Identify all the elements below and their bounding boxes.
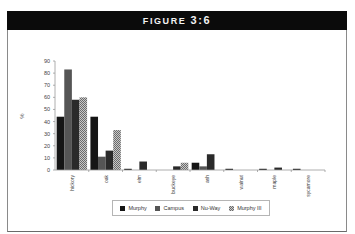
bar-oak-campus [98, 157, 106, 170]
x-tick-label: oak [103, 175, 109, 184]
legend-item-murphy-iii: Murphy III [229, 205, 261, 211]
legend-swatch-nu-way [193, 206, 198, 211]
bar-buckeye-nu-way [173, 166, 181, 170]
y-tick-label: 70 [44, 82, 50, 88]
bar-buckeye-murphy-iii [181, 163, 189, 170]
legend-label: Nu-Way [201, 205, 221, 211]
bar-chart: 0102030405060708090% hickoryoakelmbuckey… [0, 0, 355, 234]
y-axis-label: % [19, 113, 25, 119]
bar-oak-nu-way [106, 151, 114, 170]
legend: Murphy Campus Nu-Way Murphy III [112, 200, 270, 216]
y-tick-label: 80 [44, 70, 50, 76]
x-tick-label: elm [136, 175, 142, 183]
bar-oak-murphy-iii [113, 130, 121, 170]
bars [57, 69, 301, 170]
legend-item-nu-way: Nu-Way [193, 205, 221, 211]
y-axis: 0102030405060708090% [19, 58, 55, 173]
bar-oak-murphy [90, 117, 98, 170]
x-tick-label: hickory [69, 175, 75, 191]
x-axis: hickoryoakelmbuckeyeashwalnutmaplesycamo… [55, 170, 325, 197]
x-tick-label: sycamore [305, 175, 311, 197]
legend-swatch-murphy-iii [229, 206, 234, 211]
y-tick-label: 50 [44, 106, 50, 112]
legend-item-campus: Campus [155, 205, 183, 211]
x-tick-label: maple [271, 175, 277, 189]
legend-item-murphy: Murphy [120, 205, 146, 211]
legend-label: Murphy III [237, 205, 261, 211]
bar-ash-nu-way [207, 154, 215, 170]
legend-swatch-murphy [120, 206, 125, 211]
y-tick-label: 40 [44, 119, 50, 125]
bar-elm-nu-way [139, 162, 147, 170]
x-tick-label: ash [204, 175, 210, 183]
x-tick-label: walnut [238, 174, 244, 189]
y-tick-label: 60 [44, 94, 50, 100]
bar-hickory-murphy-iii [79, 97, 87, 170]
bar-ash-murphy [192, 163, 200, 170]
legend-swatch-campus [155, 206, 160, 211]
y-tick-label: 30 [44, 131, 50, 137]
bar-ash-campus [199, 166, 207, 170]
legend-label: Murphy [128, 205, 146, 211]
legend-label: Campus [163, 205, 183, 211]
y-tick-label: 20 [44, 143, 50, 149]
bar-hickory-nu-way [72, 100, 80, 170]
y-tick-label: 0 [47, 167, 50, 173]
y-tick-label: 90 [44, 58, 50, 64]
x-tick-label: buckeye [170, 175, 176, 194]
bar-hickory-campus [64, 69, 72, 170]
y-tick-label: 10 [44, 155, 50, 161]
bar-hickory-murphy [57, 117, 65, 170]
